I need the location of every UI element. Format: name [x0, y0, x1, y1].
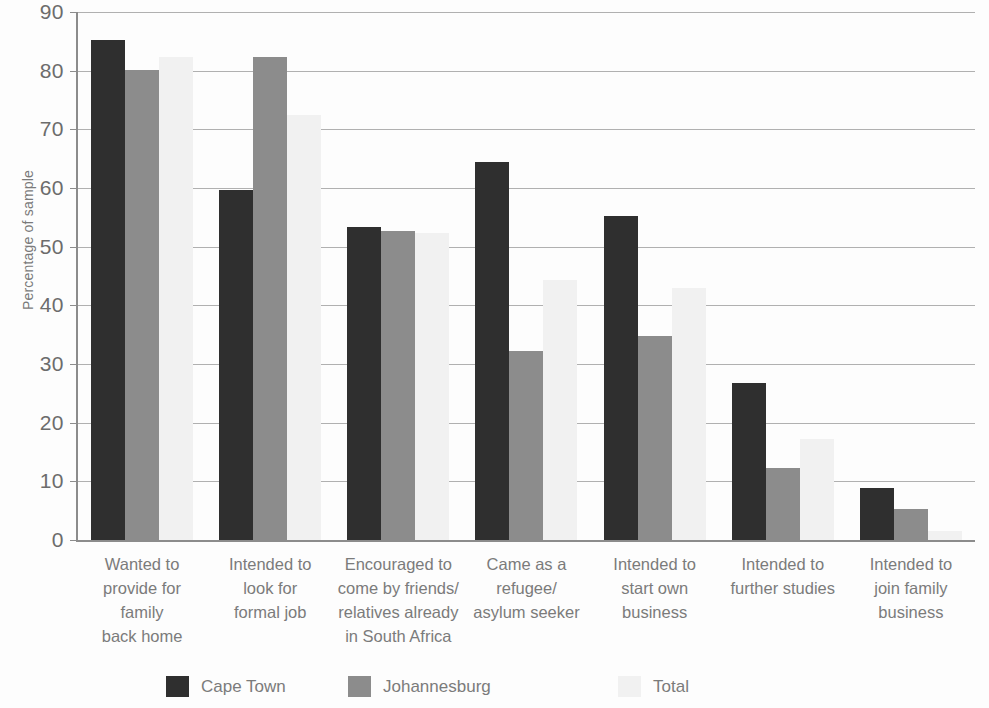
y-axis-tick-label: 0 — [52, 528, 64, 552]
bar-groups — [78, 12, 975, 540]
bar — [928, 531, 962, 540]
bar — [381, 231, 415, 540]
y-axis-tick — [70, 129, 78, 130]
x-axis-label-line: start own — [593, 576, 717, 600]
y-axis-tick — [70, 423, 78, 424]
bar-group — [78, 12, 206, 540]
x-axis-label-line: relatives already — [336, 600, 460, 624]
y-axis-tick — [70, 481, 78, 482]
bar-group — [591, 12, 719, 540]
bar — [800, 439, 834, 540]
legend-label: Total — [653, 677, 689, 697]
bar-group — [847, 12, 975, 540]
y-axis-tick — [70, 247, 78, 248]
bar-group — [206, 12, 334, 540]
x-axis-label-line: come by friends/ — [336, 576, 460, 600]
x-axis-label-line: business — [593, 600, 717, 624]
bar-set — [78, 12, 206, 540]
bar — [509, 351, 543, 540]
legend-label: Johannesburg — [383, 677, 491, 697]
x-axis-label-line: further studies — [721, 576, 845, 600]
legend-swatch-icon — [166, 676, 189, 697]
y-axis-tick-label: 40 — [40, 293, 64, 317]
y-axis-tick — [70, 364, 78, 365]
bar — [672, 288, 706, 540]
y-axis-tick-label: 50 — [40, 235, 64, 259]
bar-group — [462, 12, 590, 540]
y-axis-tick — [70, 71, 78, 72]
x-axis-label-line: Wanted to — [80, 552, 204, 576]
bar — [219, 190, 253, 540]
bar — [125, 70, 159, 541]
legend-item[interactable]: Johannesburg — [348, 676, 618, 697]
x-axis-label-line: Came as a — [464, 552, 588, 576]
x-axis-label-line: business — [849, 600, 973, 624]
x-axis-label-line: join family — [849, 576, 973, 600]
legend-label: Cape Town — [201, 677, 286, 697]
bar — [475, 162, 509, 540]
x-axis-label: Wanted toprovide for familyback home — [78, 552, 206, 648]
x-axis-label-line: refugee/ — [464, 576, 588, 600]
x-axis-label-line: asylum seeker — [464, 600, 588, 624]
bar-group — [719, 12, 847, 540]
bar — [543, 280, 577, 540]
x-axis-label-line: provide for family — [80, 576, 204, 624]
bar — [253, 57, 287, 540]
x-axis-labels: Wanted toprovide for familyback homeInte… — [78, 552, 975, 648]
y-axis-tick-label: 60 — [40, 176, 64, 200]
legend-swatch-icon — [618, 676, 641, 697]
bar — [860, 488, 894, 540]
y-axis-tick — [70, 305, 78, 306]
x-axis-label-line: Intended to — [208, 552, 332, 576]
x-axis-label: Came as arefugee/asylum seeker — [462, 552, 590, 648]
bar-set — [462, 12, 590, 540]
bar-set — [847, 12, 975, 540]
x-axis-label-line: Intended to — [593, 552, 717, 576]
y-axis-tick-label: 10 — [40, 469, 64, 493]
bar-set — [719, 12, 847, 540]
x-axis-label: Intended tojoin familybusiness — [847, 552, 975, 648]
y-axis-tick-label: 80 — [40, 59, 64, 83]
y-axis-title: Percentage of sample — [20, 140, 36, 340]
y-axis-tick-label: 20 — [40, 411, 64, 435]
bar — [159, 57, 193, 540]
y-axis-tick — [70, 188, 78, 189]
bar — [638, 336, 672, 540]
x-axis-label-line: back home — [80, 624, 204, 648]
bar — [894, 509, 928, 540]
bar — [347, 227, 381, 540]
bar-chart: Percentage of sample 9080706050403020100… — [0, 0, 989, 708]
y-axis-tick — [70, 540, 78, 541]
plot-area: 9080706050403020100 — [76, 12, 975, 542]
x-axis-label: Intended tofurther studies — [719, 552, 847, 648]
legend-swatch-icon — [348, 676, 371, 697]
x-axis-label: Intended tolook forformal job — [206, 552, 334, 648]
y-axis-tick — [70, 12, 78, 13]
x-axis-label-line: Intended to — [849, 552, 973, 576]
bar — [766, 468, 800, 540]
legend: Cape TownJohannesburgTotal — [78, 676, 908, 697]
x-axis-label-line: in South Africa — [336, 624, 460, 648]
x-axis-label: Encouraged tocome by friends/relatives a… — [334, 552, 462, 648]
bar-set — [334, 12, 462, 540]
x-axis-label: Intended tostart ownbusiness — [591, 552, 719, 648]
bar — [604, 216, 638, 540]
legend-item[interactable]: Cape Town — [78, 676, 348, 697]
x-axis-label-line: look for — [208, 576, 332, 600]
bar — [732, 383, 766, 540]
x-axis-label-line: Intended to — [721, 552, 845, 576]
bar-set — [206, 12, 334, 540]
bar-group — [334, 12, 462, 540]
y-axis-tick-label: 90 — [40, 0, 64, 24]
bar-set — [591, 12, 719, 540]
legend-item[interactable]: Total — [618, 676, 818, 697]
y-axis-tick-label: 30 — [40, 352, 64, 376]
y-axis-tick-label: 70 — [40, 117, 64, 141]
bar — [415, 233, 449, 540]
bar — [287, 115, 321, 540]
x-axis-label-line: formal job — [208, 600, 332, 624]
bar — [91, 40, 125, 540]
x-axis-label-line: Encouraged to — [336, 552, 460, 576]
